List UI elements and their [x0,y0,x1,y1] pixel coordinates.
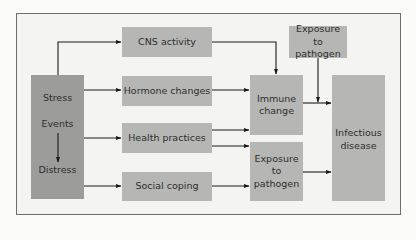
distress-label: Distress [31,164,84,175]
cns-activity-box: CNS activity [122,27,212,57]
infectious-disease-box: Infectious disease [332,75,385,201]
cns-activity-label: CNS activity [138,36,196,49]
social-coping-label: Social coping [136,180,199,193]
exposure-to-pathogen-lower-box: Exposure to pathogen [250,142,303,201]
hormone-changes-label: Hormone changes [124,85,211,98]
hormone-changes-box: Hormone changes [122,76,212,106]
infectious-disease-label: Infectious disease [335,127,381,152]
stress-label: Stress [31,92,84,103]
health-practices-box: Health practices [122,123,212,153]
exposure-to-pathogen-top-box: Exposure to pathogen [289,26,347,58]
events-label: Events [31,118,84,129]
exposure-to-pathogen-top-label: Exposure to pathogen [291,23,345,61]
exposure-to-pathogen-lower-label: Exposure to pathogen [253,153,300,191]
social-coping-box: Social coping [122,172,212,201]
health-practices-label: Health practices [128,132,206,145]
immune-change-label: Immune change [256,93,297,118]
immune-change-box: Immune change [250,75,303,135]
